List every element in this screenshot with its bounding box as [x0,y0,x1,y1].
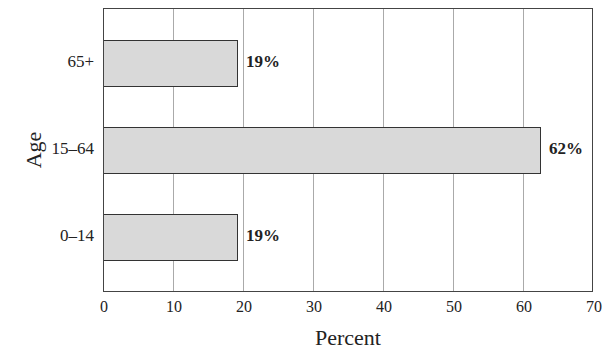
bar-15-64 [104,127,541,174]
bar-value-label: 19% [246,52,280,72]
bar-0-14 [104,214,238,261]
x-axis-label: Percent [315,325,381,351]
plot-area: 19% 62% 19% [103,8,593,292]
category-label: 65+ [34,52,94,72]
x-tick: 30 [306,298,322,316]
x-tick: 60 [516,298,532,316]
x-tick: 50 [446,298,462,316]
x-tick: 20 [236,298,252,316]
x-tick: 40 [376,298,392,316]
bar-value-label: 19% [246,226,280,246]
category-label: 0–14 [34,226,94,246]
x-tick: 10 [166,298,182,316]
bar-65-plus [104,40,238,87]
x-tick: 70 [586,298,602,316]
category-label: 15–64 [34,139,94,159]
bar-value-label: 62% [549,139,583,159]
x-tick: 0 [100,298,108,316]
